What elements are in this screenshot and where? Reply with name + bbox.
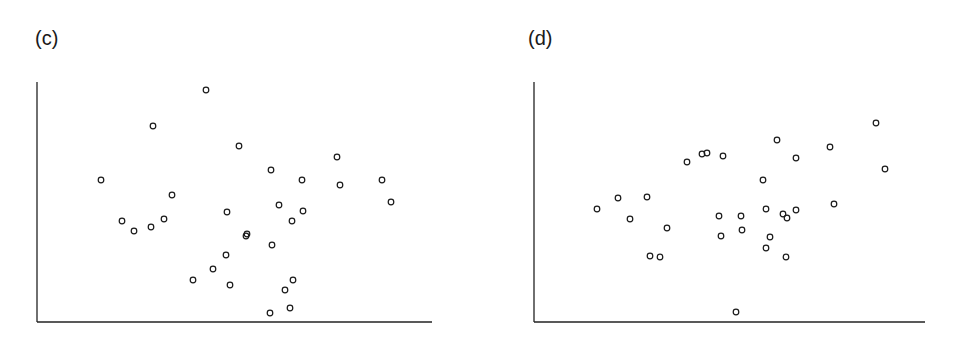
data-point xyxy=(98,177,104,183)
data-point xyxy=(150,123,156,129)
data-point xyxy=(119,218,125,224)
data-point xyxy=(739,227,745,233)
data-point xyxy=(290,277,296,283)
data-point xyxy=(224,209,230,215)
data-point xyxy=(268,167,274,173)
data-point xyxy=(827,144,833,150)
data-point xyxy=(627,216,633,222)
data-point xyxy=(388,199,394,205)
data-point xyxy=(738,213,744,219)
data-point xyxy=(210,266,216,272)
data-point xyxy=(882,166,888,172)
data-point xyxy=(169,192,175,198)
data-point xyxy=(763,245,769,251)
data-point xyxy=(287,305,293,311)
data-point xyxy=(594,206,600,212)
data-point xyxy=(300,208,306,214)
data-point xyxy=(733,309,739,315)
data-point xyxy=(334,154,340,160)
data-point xyxy=(657,254,663,260)
data-point xyxy=(793,155,799,161)
data-point xyxy=(276,202,282,208)
data-point xyxy=(718,233,724,239)
data-point xyxy=(720,153,726,159)
data-point xyxy=(780,211,786,217)
scatter-plots xyxy=(0,0,972,339)
data-point xyxy=(767,234,773,240)
data-point xyxy=(774,137,780,143)
data-point xyxy=(148,224,154,230)
data-point xyxy=(236,143,242,149)
data-point xyxy=(684,159,690,165)
data-point xyxy=(131,228,137,234)
data-point xyxy=(299,177,305,183)
data-point xyxy=(269,242,275,248)
data-point xyxy=(783,254,789,260)
data-point xyxy=(644,194,650,200)
data-point xyxy=(831,201,837,207)
data-point xyxy=(379,177,385,183)
data-point xyxy=(615,195,621,201)
scatter-panel-c xyxy=(37,82,432,322)
data-point xyxy=(793,207,799,213)
data-point xyxy=(289,218,295,224)
data-points-d xyxy=(594,120,888,315)
data-point xyxy=(873,120,879,126)
scatter-panel-d xyxy=(534,82,925,322)
data-point xyxy=(763,206,769,212)
data-point xyxy=(203,87,209,93)
data-point xyxy=(664,225,670,231)
data-point xyxy=(760,177,766,183)
data-point xyxy=(647,253,653,259)
data-point xyxy=(337,182,343,188)
data-point xyxy=(161,216,167,222)
data-point xyxy=(282,287,288,293)
data-point xyxy=(227,282,233,288)
data-points-c xyxy=(98,87,394,316)
data-point xyxy=(716,213,722,219)
data-point xyxy=(190,277,196,283)
data-point xyxy=(223,252,229,258)
data-point xyxy=(267,310,273,316)
